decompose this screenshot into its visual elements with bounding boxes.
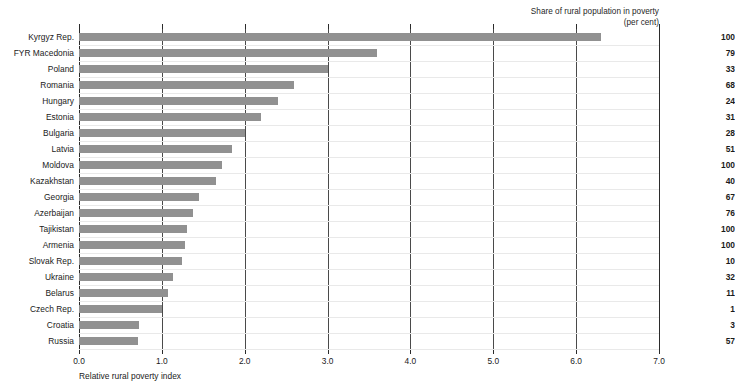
category-label: Estonia [0,109,74,125]
category-label: Romania [0,77,74,93]
bar-row [79,205,659,221]
category-label: Czech Rep. [0,301,74,317]
bar [79,337,138,345]
bar [79,113,261,121]
plot-area: 0.01.02.03.04.05.06.07.0 Kyrgyz Rep.FYR … [79,29,659,349]
secondary-value: 100 [679,157,735,173]
bar [79,225,187,233]
bar-row [79,301,659,317]
bar-row [79,317,659,333]
bar [79,81,294,89]
bar-row [79,125,659,141]
x-tick-label: 0.0 [73,356,85,366]
bar-row [79,173,659,189]
secondary-value: 24 [679,93,735,109]
category-label: Moldova [0,157,74,173]
secondary-value: 3 [679,317,735,333]
x-tick-bottom [576,350,577,354]
secondary-value: 100 [679,29,735,45]
bar [79,33,601,41]
bar [79,97,278,105]
bar [79,193,199,201]
bar-row [79,253,659,269]
bar [79,305,162,313]
secondary-value: 1 [679,301,735,317]
category-label: FYR Macedonia [0,45,74,61]
secondary-value: 31 [679,109,735,125]
x-tick-bottom [328,350,329,354]
x-tick-bottom [79,350,80,354]
x-axis-title: Relative rural poverty index [79,371,181,381]
category-label: Bulgaria [0,125,74,141]
x-tick-label: 2.0 [239,356,251,366]
category-label: Tajikistan [0,221,74,237]
category-label: Ukraine [0,269,74,285]
x-tick-label: 5.0 [487,356,499,366]
secondary-value: 76 [679,205,735,221]
x-tick-bottom [659,350,660,354]
category-label: Kyrgyz Rep. [0,29,74,45]
bar [79,49,377,57]
bar-row [79,189,659,205]
secondary-value: 11 [679,285,735,301]
secondary-value-column: 1007933682431285110040677610010010321113… [679,29,735,349]
secondary-value: 51 [679,141,735,157]
bar-row [79,157,659,173]
bar-row [79,93,659,109]
category-axis-labels: Kyrgyz Rep.FYR MacedoniaPolandRomaniaHun… [0,29,74,349]
category-label: Kazakhstan [0,173,74,189]
bar-row [79,45,659,61]
category-label: Belarus [0,285,74,301]
secondary-value: 100 [679,221,735,237]
bar-row [79,269,659,285]
x-tick-label: 3.0 [322,356,334,366]
bar-row [79,109,659,125]
x-tick [659,24,660,29]
secondary-value: 67 [679,189,735,205]
category-label: Armenia [0,237,74,253]
secondary-value: 40 [679,173,735,189]
bar [79,209,193,217]
bar [79,65,328,73]
category-label: Croatia [0,317,74,333]
secondary-value: 57 [679,333,735,349]
secondary-value: 33 [679,61,735,77]
bar [79,129,245,137]
category-label: Latvia [0,141,74,157]
bar [79,161,222,169]
category-label: Georgia [0,189,74,205]
category-label: Slovak Rep. [0,253,74,269]
bar [79,289,168,297]
bar-row [79,141,659,157]
secondary-column-header-line2: (per cent) [459,18,659,29]
category-label: Azerbaijan [0,205,74,221]
x-tick-bottom [410,350,411,354]
secondary-value: 32 [679,269,735,285]
secondary-value: 28 [679,125,735,141]
x-tick-bottom [493,350,494,354]
x-tick-bottom [162,350,163,354]
x-tick-bottom [245,350,246,354]
bar [79,241,185,249]
plot-right-border [659,29,660,350]
x-tick-label: 6.0 [570,356,582,366]
bar-row [79,333,659,349]
bar-row [79,29,659,45]
bar-row [79,61,659,77]
bar-row [79,285,659,301]
x-tick-label: 4.0 [405,356,417,366]
secondary-column-header: Share of rural population in poverty (pe… [459,7,659,28]
bar-row [79,77,659,93]
x-tick-label: 7.0 [653,356,665,366]
secondary-value: 79 [679,45,735,61]
bar [79,321,139,329]
secondary-value: 100 [679,237,735,253]
bar [79,177,216,185]
secondary-column-header-line1: Share of rural population in poverty [531,7,659,16]
bar [79,273,173,281]
bar-row [79,221,659,237]
bar [79,145,232,153]
category-label: Poland [0,61,74,77]
secondary-value: 68 [679,77,735,93]
